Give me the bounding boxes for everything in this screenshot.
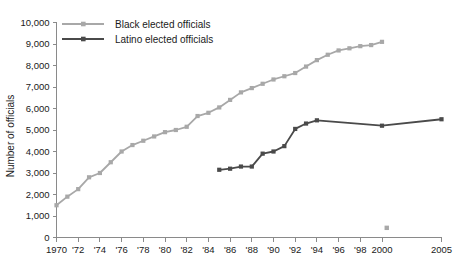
data-point-marker bbox=[369, 43, 373, 47]
data-point-marker bbox=[282, 144, 286, 148]
y-tick-label: 7,000 bbox=[26, 81, 50, 92]
data-point-marker bbox=[261, 82, 265, 86]
series-2 bbox=[217, 117, 443, 172]
x-tick-label: '82 bbox=[181, 244, 193, 255]
x-tick-label: '88 bbox=[246, 244, 258, 255]
y-tick-label: 5,000 bbox=[26, 124, 50, 135]
data-point-marker bbox=[282, 74, 286, 78]
y-tick-label: 6,000 bbox=[26, 103, 50, 114]
data-point-marker bbox=[120, 149, 124, 153]
chart-container: 01,0002,0003,0004,0005,0006,0007,0008,00… bbox=[0, 0, 467, 271]
y-axis: 01,0002,0003,0004,0005,0006,0007,0008,00… bbox=[20, 17, 56, 243]
data-point-marker bbox=[304, 121, 308, 125]
x-tick-label: '98 bbox=[354, 244, 366, 255]
x-tick-label: 2000 bbox=[371, 244, 392, 255]
y-tick-label: 4,000 bbox=[26, 146, 50, 157]
x-tick-label: '94 bbox=[311, 244, 323, 255]
data-point-marker bbox=[206, 111, 210, 115]
data-point-marker bbox=[315, 58, 319, 62]
y-tick-label: 2,000 bbox=[26, 189, 50, 200]
y-tick-label: 3,000 bbox=[26, 167, 50, 178]
data-point-marker bbox=[87, 175, 91, 179]
legend-label-1: Black elected officials bbox=[115, 19, 210, 30]
data-point-marker bbox=[130, 143, 134, 147]
x-tick-label: '76 bbox=[115, 244, 127, 255]
data-point-marker bbox=[195, 114, 199, 118]
legend-label-2: Latino elected officials bbox=[115, 34, 213, 45]
data-point-marker bbox=[380, 40, 384, 44]
data-point-marker bbox=[293, 71, 297, 75]
data-point-marker bbox=[228, 98, 232, 102]
data-point-marker bbox=[239, 90, 243, 94]
x-tick-label: '96 bbox=[332, 244, 344, 255]
x-tick-label: '72 bbox=[72, 244, 84, 255]
axis-lines bbox=[57, 22, 442, 238]
data-point-marker bbox=[185, 125, 189, 129]
data-point-marker bbox=[315, 118, 319, 122]
chart-axes bbox=[57, 22, 442, 238]
data-point-marker bbox=[239, 164, 243, 168]
data-point-marker bbox=[271, 149, 275, 153]
x-tick-label: '84 bbox=[202, 244, 214, 255]
data-point-marker bbox=[76, 187, 80, 191]
data-point-marker bbox=[337, 48, 341, 52]
data-point-marker bbox=[174, 128, 178, 132]
data-point-marker bbox=[261, 152, 265, 156]
data-point-marker bbox=[439, 117, 443, 121]
line-chart: 01,0002,0003,0004,0005,0006,0007,0008,00… bbox=[0, 0, 467, 271]
legend-marker-2 bbox=[81, 37, 86, 42]
legend-marker-1 bbox=[81, 22, 86, 27]
data-point-marker bbox=[228, 167, 232, 171]
data-point-marker bbox=[271, 77, 275, 81]
series-line bbox=[219, 119, 441, 170]
x-tick-label: '80 bbox=[159, 244, 171, 255]
series-1 bbox=[54, 40, 384, 208]
series-line bbox=[57, 42, 383, 205]
data-point-marker bbox=[217, 105, 221, 109]
y-tick-label: 8,000 bbox=[26, 60, 50, 71]
y-tick-label: 9,000 bbox=[26, 38, 50, 49]
data-point-marker bbox=[109, 160, 113, 164]
chart-legend: Black elected officialsLatino elected of… bbox=[62, 19, 213, 45]
y-tick-label: 0 bbox=[44, 232, 49, 243]
data-point-marker bbox=[98, 171, 102, 175]
data-point-marker bbox=[65, 195, 69, 199]
data-point-marker bbox=[54, 203, 58, 207]
data-point-marker bbox=[217, 168, 221, 172]
y-tick-label: 10,000 bbox=[20, 17, 49, 28]
x-tick-label: '86 bbox=[224, 244, 236, 255]
data-point-marker bbox=[326, 53, 330, 57]
data-point-marker bbox=[304, 64, 308, 68]
data-point-marker bbox=[380, 124, 384, 128]
x-tick-label: '74 bbox=[94, 244, 106, 255]
x-tick-label: '92 bbox=[289, 244, 301, 255]
data-point-marker bbox=[347, 46, 351, 50]
x-tick-label: 2005 bbox=[431, 244, 452, 255]
y-axis-title: Number of officials bbox=[5, 95, 16, 178]
data-point-marker bbox=[250, 86, 254, 90]
data-point-marker bbox=[250, 164, 254, 168]
x-tick-label: '78 bbox=[137, 244, 149, 255]
stray-marker bbox=[385, 226, 389, 230]
x-axis: 1970'72'74'76'78'80'82'84'86'88'90'92'94… bbox=[46, 238, 452, 255]
x-tick-label: 1970 bbox=[46, 244, 67, 255]
y-tick-label: 1,000 bbox=[26, 210, 50, 221]
data-point-marker bbox=[152, 134, 156, 138]
data-point-marker bbox=[141, 139, 145, 143]
data-point-marker bbox=[293, 127, 297, 131]
data-point-marker bbox=[163, 130, 167, 134]
x-tick-label: '90 bbox=[267, 244, 279, 255]
data-point-marker bbox=[358, 44, 362, 48]
